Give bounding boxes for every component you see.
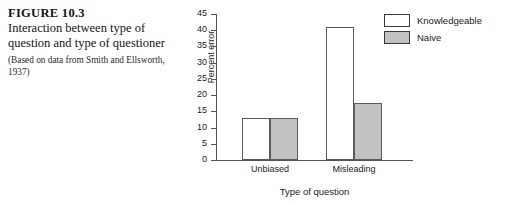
x-axis-label-misleading: Misleading (310, 164, 398, 174)
y-axis-tick-label: 10 (197, 122, 207, 132)
bar-unbiased-knowledgeable (242, 118, 270, 160)
y-axis-tick: 45 (211, 14, 216, 15)
bar-misleading-naive (354, 103, 382, 160)
y-axis-tick-label: 30 (197, 57, 207, 67)
legend-item-knowledgeable[interactable]: Knowledgeable (384, 14, 482, 27)
y-axis-tick: 10 (211, 128, 216, 129)
y-axis-tick: 25 (211, 79, 216, 80)
legend-label-naive: Naive (417, 32, 441, 43)
y-axis-tick-label: 35 (197, 40, 207, 50)
bar-unbiased-naive (270, 118, 298, 160)
y-axis-tick-label: 0 (202, 154, 207, 164)
bar-misleading-knowledgeable (326, 27, 354, 160)
legend-label-knowledgeable: Knowledgeable (417, 15, 482, 26)
y-axis-tick: 20 (211, 95, 216, 96)
legend-item-naive[interactable]: Naive (384, 31, 482, 44)
x-axis-label-unbiased: Unbiased (226, 164, 314, 174)
y-axis-title: Percent error (206, 12, 216, 102)
bar-chart: Percent error 051015202530354045 Unbiase… (188, 0, 523, 205)
legend-swatch-naive (384, 31, 410, 44)
y-axis-tick: 30 (211, 63, 216, 64)
x-axis-line (216, 160, 413, 161)
figure-number: FIGURE 10.3 (8, 6, 180, 20)
y-axis-tick-label: 20 (197, 89, 207, 99)
y-axis-tick-label: 40 (197, 24, 207, 34)
y-axis-tick-label: 5 (202, 138, 207, 148)
legend-swatch-knowledgeable (384, 14, 410, 27)
y-axis-tick-label: 15 (197, 105, 207, 115)
y-axis-tick: 35 (211, 46, 216, 47)
figure-caption-block: FIGURE 10.3 Interaction between type of … (8, 6, 180, 78)
y-axis-tick-label: 25 (197, 73, 207, 83)
plot-area: 051015202530354045 UnbiasedMisleading (216, 14, 386, 160)
figure-source-note: (Based on data from Smith and Ellsworth,… (8, 55, 180, 78)
y-axis-tick: 0 (211, 160, 216, 161)
x-axis-title: Type of question (216, 186, 413, 197)
figure-title: Interaction between type of question and… (8, 21, 180, 50)
y-axis-tick: 15 (211, 111, 216, 112)
y-axis-tick: 5 (211, 144, 216, 145)
y-axis-tick: 40 (211, 30, 216, 31)
y-axis-line (216, 14, 217, 160)
y-axis-tick-label: 45 (197, 8, 207, 18)
chart-legend: KnowledgeableNaive (384, 14, 482, 48)
